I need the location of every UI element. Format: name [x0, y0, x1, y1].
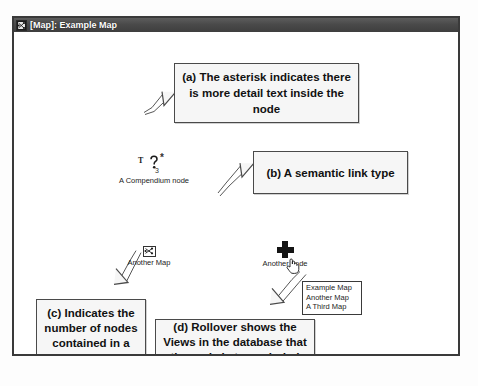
callout-d: (d) Rollover shows the Views in the data…	[155, 319, 315, 354]
callout-b-text: (b) A semantic link type	[266, 165, 394, 181]
node-label: Another node	[238, 259, 332, 268]
window-title-text: [Map]: Example Map	[30, 20, 117, 30]
callout-b: (b) A semantic link type	[253, 151, 408, 194]
question-node-icons: T * 3	[100, 154, 208, 176]
node-another-map[interactable]: Another Map	[104, 244, 194, 267]
hand-cursor-icon	[286, 256, 300, 274]
callout-a-text: (a) The asterisk indicates there is more…	[180, 69, 353, 117]
node-another-node[interactable]: Another node	[238, 240, 332, 268]
map-window: [Map]: Example Map	[12, 16, 460, 356]
callout-a: (a) The asterisk indicates there is more…	[174, 63, 359, 123]
rollover-item: A Third Map	[306, 302, 358, 312]
node-type-letter: T	[138, 156, 143, 165]
callout-c: (c) Indicates the number of nodes contai…	[36, 299, 146, 354]
callout-d-text: (d) Rollover shows the Views in the data…	[161, 320, 309, 354]
scanned-page: [Map]: Example Map	[0, 0, 478, 386]
map-window-icon[interactable]	[16, 20, 27, 31]
rollover-item: Example Map	[306, 283, 358, 293]
node-a-compendium-node[interactable]: T * 3 A Compendium node	[100, 154, 208, 185]
rollover-views-tooltip: Example Map Another Map A Third Map	[302, 281, 362, 315]
node-child-count: 3	[155, 167, 159, 175]
map-node-icon[interactable]	[143, 246, 156, 257]
detail-asterisk-icon: *	[160, 153, 164, 163]
callout-c-text: (c) Indicates the number of nodes contai…	[42, 306, 140, 355]
rollover-item: Another Map	[306, 293, 358, 303]
window-title-bar[interactable]: [Map]: Example Map	[14, 18, 458, 32]
node-label: Another Map	[104, 258, 194, 267]
map-canvas[interactable]: T * 3 A Compendium node	[14, 32, 458, 354]
node-label: A Compendium node	[100, 176, 208, 185]
